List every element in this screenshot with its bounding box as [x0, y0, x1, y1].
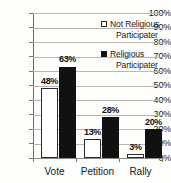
bar-label: 28% — [97, 106, 124, 115]
x-tick-mark — [162, 158, 163, 162]
bar-petition-religious — [102, 117, 119, 158]
legend-swatch-filled-square-icon — [101, 51, 107, 57]
x-axis-label-vote: Vote — [33, 166, 76, 177]
legend-entry-not-religious: Not Religious Participater — [101, 19, 171, 40]
x-tick-mark — [76, 158, 77, 162]
legend: Not Religious Participater Religious Par… — [101, 19, 171, 76]
bar-chart: 100% 90% 80% 70% 60% 50% 40% 30% 20% 10%… — [0, 0, 171, 183]
bar-label: 63% — [54, 55, 81, 64]
x-axis-label-rally: Rally — [119, 166, 162, 177]
x-axis-label-petition: Petition — [76, 166, 119, 177]
legend-label-line1: Not Religious — [110, 19, 159, 29]
legend-label-line1: Religious — [110, 49, 144, 59]
bar-rally-not-religious — [127, 154, 144, 158]
x-tick-mark — [119, 158, 120, 162]
bar-rally-religious — [145, 129, 162, 158]
x-tick-mark — [33, 158, 34, 162]
gridline — [33, 13, 163, 14]
legend-entry-religious: Religious Participater — [101, 49, 171, 70]
legend-swatch-hollow-square-icon — [101, 21, 107, 27]
bar-vote-religious — [59, 67, 76, 158]
legend-label-line2: Participater — [110, 60, 171, 71]
bar-vote-not-religious — [41, 88, 58, 158]
legend-label: Not Religious Participater — [101, 19, 171, 40]
legend-label: Religious Participater — [101, 49, 171, 70]
legend-label-line2: Participater — [110, 30, 171, 41]
x-axis-line — [33, 158, 163, 159]
bar-petition-not-religious — [84, 139, 101, 158]
bar-label: 20% — [140, 118, 167, 127]
